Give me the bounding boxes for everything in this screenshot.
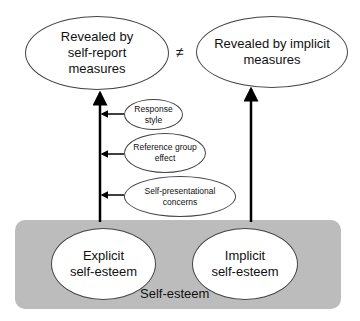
reference-group-effect-node: Reference group effect [124, 133, 206, 173]
node-text: concerns [145, 197, 216, 208]
node-text: measures [214, 52, 330, 68]
node-text: Response [134, 104, 172, 115]
node-text: Reference group [133, 142, 196, 153]
node-text: Explicit [70, 248, 137, 264]
self-presentational-concerns-node: Self-presentational concerns [124, 176, 236, 217]
node-text: measures [61, 61, 133, 77]
node-text: style [134, 115, 172, 126]
self-report-measures-node: Revealed by self-report measures [25, 16, 169, 90]
node-text: Implicit [211, 248, 278, 264]
not-equal-symbol: ≠ [176, 44, 184, 60]
self-esteem-label: Self-esteem [140, 286, 209, 301]
node-text: self-esteem [70, 264, 137, 280]
node-text: self-report [61, 45, 133, 61]
node-text: self-esteem [211, 264, 278, 280]
node-text: Revealed by [61, 29, 133, 45]
response-style-node: Response style [124, 99, 183, 130]
node-text: Self-presentational [145, 186, 216, 197]
node-text: effect [133, 153, 196, 164]
implicit-measures-node: Revealed by implicit measures [196, 16, 348, 88]
node-text: Revealed by implicit [214, 36, 330, 52]
